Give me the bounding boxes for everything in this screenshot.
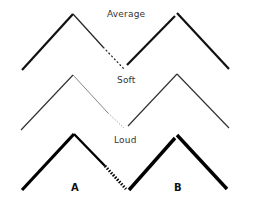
row-average-waves <box>22 13 229 70</box>
loudness-diagram: Average Soft Loud A B <box>0 0 254 203</box>
row-label-average: Average <box>107 9 145 19</box>
wave-drawing <box>0 0 254 203</box>
average-b-fall <box>177 13 229 69</box>
row-label-loud: Loud <box>114 135 137 145</box>
row-label-soft: Soft <box>117 75 136 85</box>
average-dashed-transition <box>103 47 125 70</box>
soft-b-fall <box>177 74 229 128</box>
loud-a-rise <box>22 134 74 190</box>
loud-dashed-transition <box>105 166 126 189</box>
soft-dashed-transition <box>108 113 124 128</box>
soft-a-fall <box>73 75 108 113</box>
wave-label-b: B <box>174 182 182 193</box>
soft-a-rise <box>21 75 73 130</box>
loud-a-fall <box>74 134 105 166</box>
average-a-fall <box>73 14 103 47</box>
loud-b-fall <box>177 135 227 189</box>
average-a-rise <box>22 14 73 70</box>
loud-b-rise <box>129 138 175 190</box>
average-b-rise <box>127 16 175 65</box>
wave-label-a: A <box>71 182 79 193</box>
